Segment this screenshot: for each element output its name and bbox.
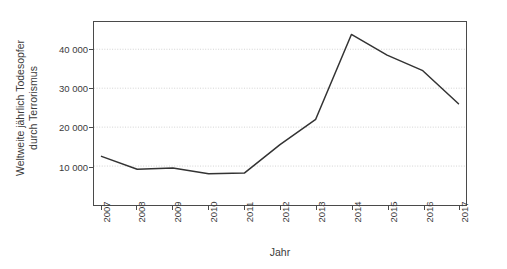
x-tick-label: 2017 xyxy=(459,201,470,222)
y-tick-label: 10 000 xyxy=(42,161,88,172)
x-tick-label: 2009 xyxy=(172,201,183,222)
plot-area xyxy=(93,21,467,206)
x-tick-label: 2011 xyxy=(244,202,255,222)
x-tick-label: 2012 xyxy=(280,201,291,222)
y-tick-label: 40 000 xyxy=(42,43,88,54)
data-series-line xyxy=(94,22,466,205)
x-tick-label: 2007 xyxy=(101,201,112,222)
x-tick-label: 2013 xyxy=(316,201,327,222)
series-polyline xyxy=(101,34,458,173)
x-tick-label: 2010 xyxy=(208,201,219,222)
x-tick-label: 2015 xyxy=(388,201,399,222)
y-tick-label: 20 000 xyxy=(42,122,88,133)
y-axis-tick-labels: 10 00020 00030 00040 000 xyxy=(40,0,88,269)
chart-figure: Weltweite jährlich Todesopfer durch Terr… xyxy=(0,0,507,269)
x-axis-title: Jahr xyxy=(93,246,467,258)
x-tick-label: 2014 xyxy=(352,201,363,222)
x-tick-label: 2016 xyxy=(424,201,435,222)
y-axis-title-line1: Weltweite jährlich Todesopfer xyxy=(14,39,26,175)
x-tick-label: 2008 xyxy=(136,201,147,222)
y-tick-label: 30 000 xyxy=(42,82,88,93)
y-axis-title-line2: durch Terrorismus xyxy=(27,39,40,175)
